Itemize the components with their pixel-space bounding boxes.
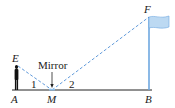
point-E-label: E — [11, 52, 19, 64]
arrow-head-icon — [50, 84, 53, 88]
angle-1-label: 1 — [31, 78, 37, 90]
mirror-label: Mirror — [38, 59, 68, 71]
angle-2-label: 2 — [69, 78, 75, 90]
point-B-label: B — [145, 93, 152, 105]
point-M-label: M — [46, 93, 57, 105]
sightline-M-F — [52, 17, 149, 90]
flag — [149, 16, 169, 28]
point-A-label: A — [10, 93, 18, 105]
mirror — [49, 89, 55, 91]
point-F-label: F — [143, 3, 151, 15]
mirror-flagpole-diagram: Mirror E F A M B 1 2 — [0, 0, 175, 108]
person-figure — [15, 65, 19, 90]
